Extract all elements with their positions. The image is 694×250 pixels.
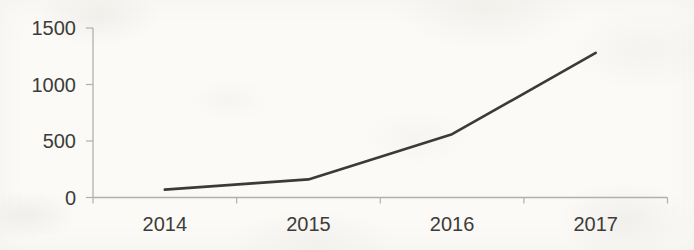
line-chart-figure: 0500100015002014201520162017 <box>0 0 694 250</box>
x-axis-tick-label: 2014 <box>143 213 188 235</box>
x-axis-tick-label: 2016 <box>430 213 475 235</box>
chart-canvas: 0500100015002014201520162017 <box>0 0 694 250</box>
y-axis-tick-label: 500 <box>43 130 76 152</box>
y-axis-tick-label: 1000 <box>32 74 77 96</box>
data-series-line <box>165 53 596 190</box>
scanned-page: 0500100015002014201520162017 <box>0 0 694 250</box>
y-axis-tick-label: 0 <box>65 187 76 209</box>
x-axis-tick-label: 2015 <box>286 213 331 235</box>
y-axis-tick-label: 1500 <box>32 17 77 39</box>
x-axis-tick-label: 2017 <box>573 213 618 235</box>
